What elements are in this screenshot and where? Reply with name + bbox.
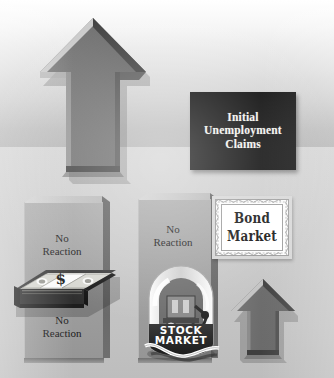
certificate-inner-panel: Bond Market	[221, 204, 283, 251]
certificate-line-1: Bond	[227, 210, 277, 228]
sign-line-3: Claims	[204, 138, 282, 152]
illustration-canvas: Initial Unemployment Claims No Reaction …	[0, 0, 334, 378]
small-up-arrow	[228, 275, 300, 363]
bond-market-certificate: Bond Market	[212, 196, 292, 259]
block1-label-top-line1: No	[14, 232, 110, 245]
block2-label-top-line1: No	[128, 223, 218, 236]
sign-text: Initial Unemployment Claims	[200, 111, 286, 152]
block-top-face	[24, 196, 102, 203]
stock-market-bell-jar: STOCK MARKET	[139, 258, 223, 364]
certificate-text: Bond Market	[227, 210, 277, 245]
stack-of-banknotes: $	[12, 256, 120, 318]
block2-label-top-line2: Reaction	[128, 236, 218, 249]
large-up-arrow	[36, 14, 150, 184]
certificate-line-2: Market	[227, 228, 277, 246]
sign-line-2: Unemployment	[204, 124, 282, 138]
block1-label-bottom-line2: Reaction	[14, 327, 110, 340]
initial-unemployment-claims-sign: Initial Unemployment Claims	[190, 92, 296, 170]
stock-label-line2: MARKET	[155, 334, 208, 346]
sign-line-1: Initial	[204, 111, 282, 125]
block-top-face	[138, 193, 210, 200]
block-bottom-bevel	[24, 358, 104, 363]
dollar-symbol: $	[55, 270, 66, 289]
block2-label-top: No Reaction	[128, 223, 218, 249]
block1-label-top: No Reaction	[14, 232, 110, 258]
